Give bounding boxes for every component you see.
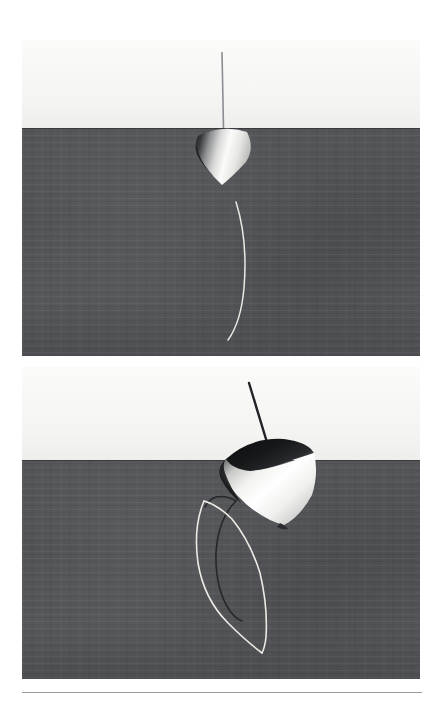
top-stem-bottom bbox=[249, 383, 269, 449]
top-stem-top bbox=[222, 52, 224, 128]
top-cone-body-top bbox=[196, 129, 250, 185]
tip-trace-top bbox=[228, 202, 245, 340]
tip-trace-outer-left-bottom bbox=[196, 501, 262, 653]
scene-vector-layer-top bbox=[22, 40, 420, 356]
figure-sheet bbox=[0, 0, 444, 704]
scene-vector-layer-bottom bbox=[22, 367, 420, 679]
render-panel-top bbox=[22, 40, 420, 356]
render-panel-bottom bbox=[22, 367, 420, 679]
horizontal-rule bbox=[22, 692, 422, 693]
tip-trace-inner-bottom bbox=[216, 501, 242, 621]
